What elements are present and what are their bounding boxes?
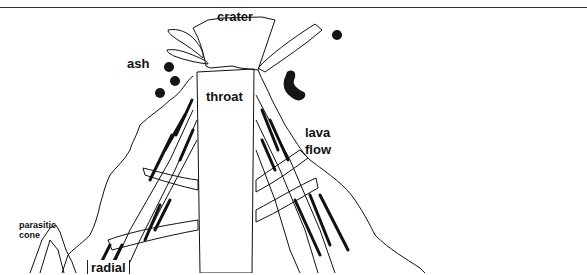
label-lava-flow-line2: flow xyxy=(305,141,331,158)
label-radial: radial xyxy=(87,260,130,274)
label-throat: throat xyxy=(206,90,243,103)
ash-bomb-2 xyxy=(170,76,180,86)
label-parasitic-cone-line2: cone xyxy=(19,230,56,240)
lava-bomb-kidney xyxy=(284,70,306,100)
ash-bomb-3 xyxy=(155,88,165,98)
crater-funnel xyxy=(193,17,275,70)
volcano-outline-left xyxy=(62,76,193,273)
label-lava-flow: lava flow xyxy=(305,124,331,158)
label-lava-flow-line1: lava xyxy=(305,124,331,141)
dike-right-2 xyxy=(256,178,318,222)
label-parasitic-cone: parasitic cone xyxy=(19,220,56,240)
ejecta-slab-1 xyxy=(168,29,203,58)
ash-bomb-1 xyxy=(164,62,174,72)
ash-bomb-4 xyxy=(332,30,342,40)
label-ash: ash xyxy=(127,57,149,70)
volcano-outline-right xyxy=(258,70,425,273)
ejecta-slab-3 xyxy=(258,24,322,72)
label-crater: crater xyxy=(217,10,253,23)
label-parasitic-cone-line1: parasitic xyxy=(19,220,56,230)
